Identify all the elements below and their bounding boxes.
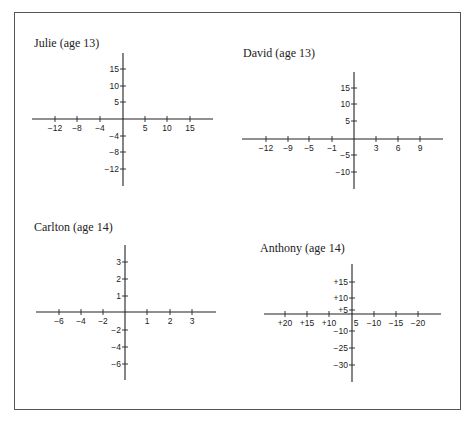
y-tick-label: −2 (111, 325, 121, 335)
x-tick-label: −4 (76, 316, 86, 326)
x-tick-label: +15 (300, 318, 315, 328)
x-tick-label: +20 (278, 318, 293, 328)
david-axes: −12−9−5−136915105−5−10 (242, 72, 443, 189)
x-tick-label: −1 (327, 143, 337, 153)
y-tick-label: −12 (105, 164, 120, 174)
y-tick-label: −25 (334, 343, 349, 353)
julie-axes: −12−8−45101515105−4−8−12 (32, 53, 213, 186)
x-tick-label: −2 (98, 316, 108, 326)
y-tick-label: 5 (345, 116, 350, 126)
x-tick-label: −10 (367, 318, 382, 328)
x-tick-label: 2 (168, 316, 173, 326)
y-tick-label: −10 (336, 167, 351, 177)
x-tick-label: 6 (396, 143, 401, 153)
y-tick-label: −8 (109, 147, 119, 157)
x-tick-label: −15 (389, 318, 404, 328)
y-tick-label: 15 (110, 64, 120, 74)
x-tick-label: −5 (304, 143, 314, 153)
x-tick-label: 1 (145, 316, 150, 326)
x-tick-label: −12 (259, 143, 274, 153)
x-tick-label: −4 (95, 123, 105, 133)
y-tick-label: +5 (338, 305, 348, 315)
y-tick-label: 15 (341, 83, 351, 93)
y-tick-label: −10 (334, 326, 349, 336)
y-tick-label: −30 (334, 360, 349, 370)
y-tick-label: −4 (109, 131, 119, 141)
x-tick-label: −20 (411, 318, 426, 328)
x-tick-label: −8 (72, 123, 82, 133)
y-tick-label: 10 (110, 81, 120, 91)
y-tick-label: 1 (116, 291, 121, 301)
y-tick-label: −6 (111, 359, 121, 369)
y-tick-label: 10 (341, 99, 351, 109)
anthony-axes: +20+15+105−10−15−20+15+10+5−10−25−30 (264, 264, 441, 382)
y-tick-label: −5 (340, 150, 350, 160)
x-tick-label: 3 (374, 143, 379, 153)
y-tick-label: +15 (334, 277, 349, 287)
y-tick-label: 2 (116, 274, 121, 284)
x-tick-label: 15 (185, 123, 195, 133)
x-tick-label: 9 (418, 143, 423, 153)
y-tick-label: +10 (334, 293, 349, 303)
x-tick-label: 10 (162, 123, 172, 133)
axes-plots: −12−8−45101515105−4−8−12 −12−9−5−1369151… (0, 0, 472, 424)
y-tick-label: 3 (116, 257, 121, 267)
carlton-axes: −6−4−2123321−2−4−6 (36, 245, 216, 380)
x-tick-label: −12 (48, 123, 63, 133)
y-tick-label: 5 (114, 97, 119, 107)
x-tick-label: 5 (143, 123, 148, 133)
y-tick-label: −4 (111, 342, 121, 352)
x-tick-label: −9 (283, 143, 293, 153)
x-tick-label: 3 (190, 316, 195, 326)
x-tick-label: 5 (354, 318, 359, 328)
x-tick-label: −6 (54, 316, 64, 326)
